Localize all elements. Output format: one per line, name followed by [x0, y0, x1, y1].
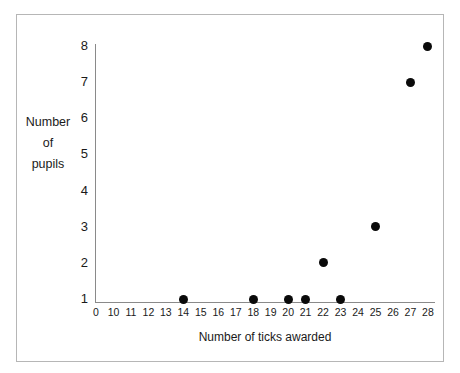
- scatter-plot-figure: 12345678 0101112131415161718192021222324…: [0, 0, 460, 373]
- figure-border: [16, 14, 444, 362]
